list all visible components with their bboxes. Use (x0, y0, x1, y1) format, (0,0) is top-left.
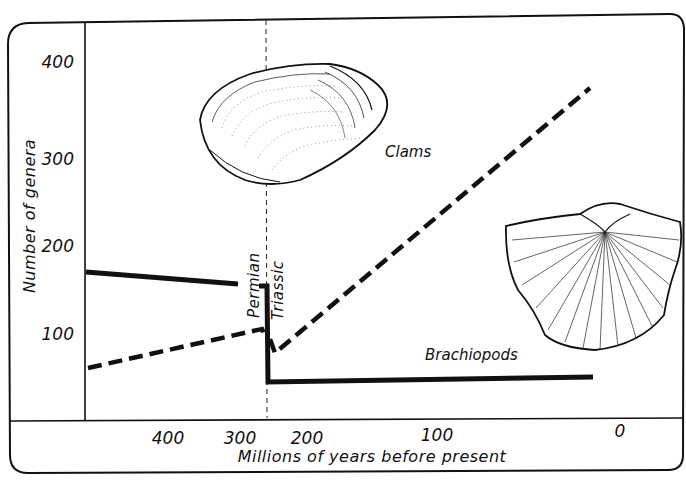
triassic-label: Triassic (269, 260, 287, 320)
x-tick-400: 400 (152, 428, 184, 448)
x-tick-300: 300 (224, 428, 256, 448)
y-axis-title: Number of genera (20, 139, 39, 293)
y-tick-200: 200 (42, 236, 74, 256)
clams-label: Clams (385, 143, 431, 161)
y-tick-300: 300 (42, 149, 74, 169)
clam-shell-illustration (200, 64, 387, 184)
x-tick-0: 0 (615, 421, 626, 441)
brachiopods-label: Brachiopods (425, 346, 518, 364)
genera-chart: 400 300 200 100 Number of genera 400 300… (0, 0, 686, 480)
x-tick-100: 100 (421, 425, 453, 445)
x-axis-line (10, 418, 683, 421)
y-tick-100: 100 (42, 324, 74, 344)
y-tick-400: 400 (42, 52, 74, 72)
x-axis-title: Millions of years before present (238, 447, 507, 466)
x-tick-200: 200 (291, 428, 323, 448)
brachiopod-shell-illustration (506, 203, 681, 350)
